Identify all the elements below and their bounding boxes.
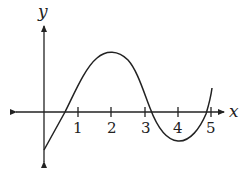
- tick-label-3: 3: [141, 119, 151, 137]
- x-axis-label: x: [229, 101, 239, 121]
- function-curve: [44, 52, 212, 150]
- tick-label-2: 2: [107, 119, 117, 137]
- tick-label-4: 4: [173, 119, 183, 137]
- tick-label-1: 1: [73, 119, 83, 137]
- tick-label-5: 5: [206, 119, 216, 137]
- function-graph: 1 2 3 4 5 x y: [0, 0, 247, 169]
- y-axis-label: y: [37, 1, 48, 21]
